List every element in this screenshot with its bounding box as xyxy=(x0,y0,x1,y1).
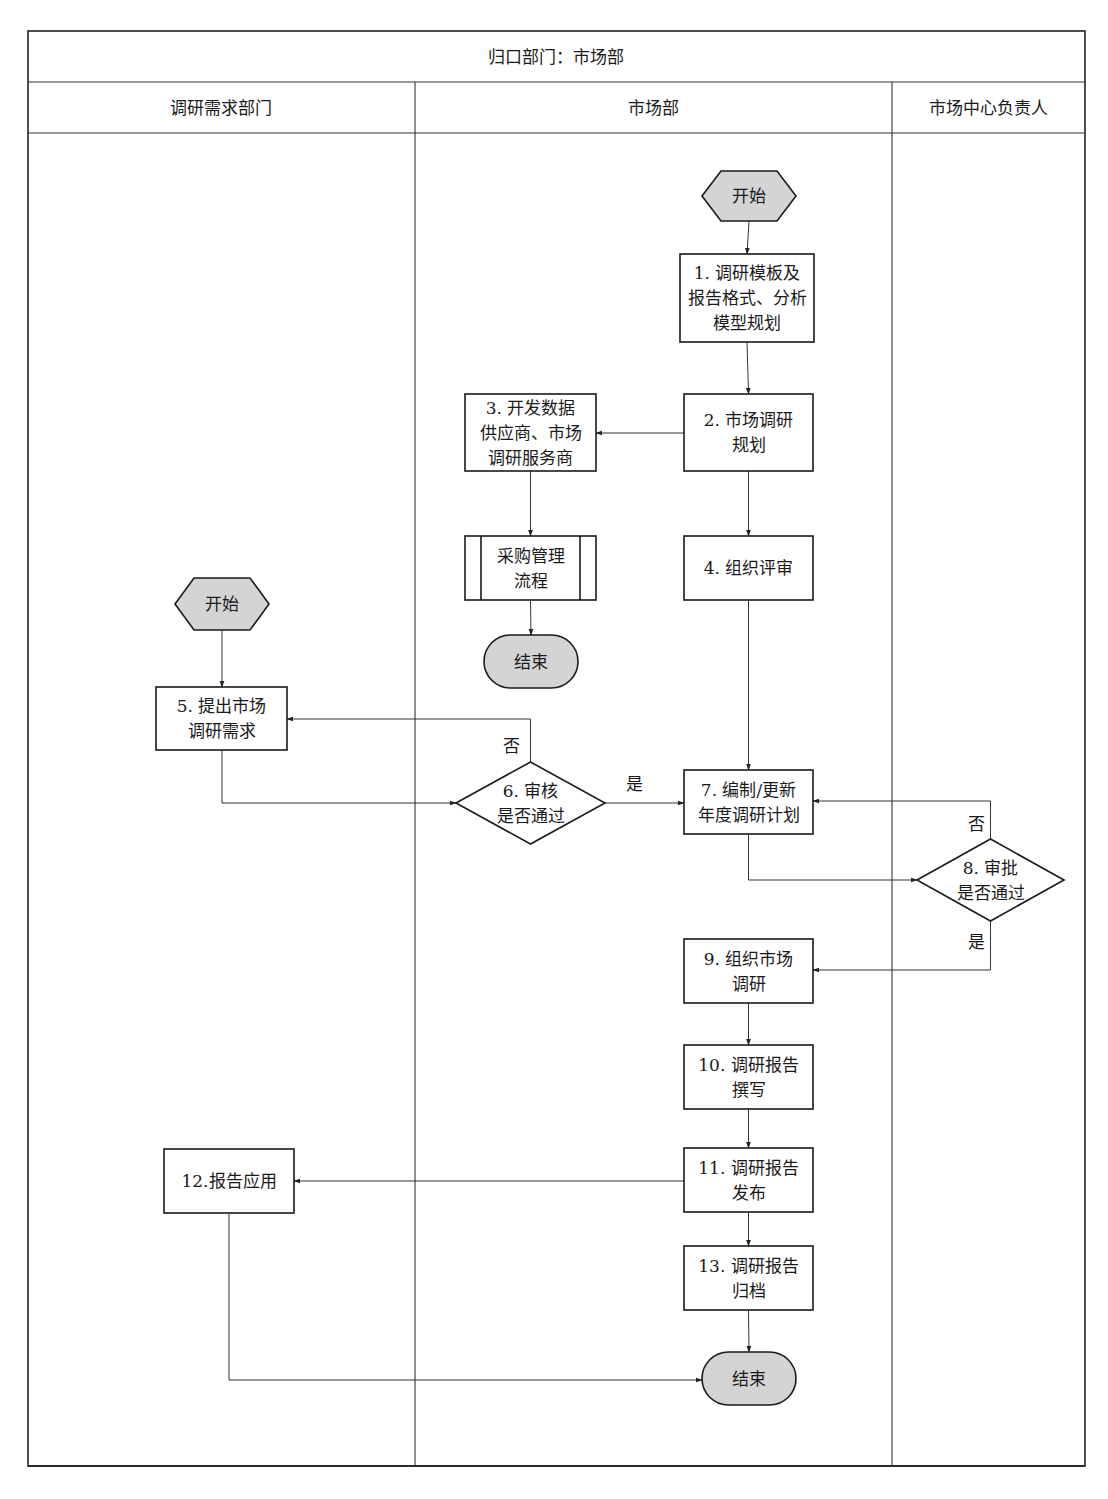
edge-label: 是 xyxy=(968,932,985,952)
node-label-line: 9. 组织市场 xyxy=(704,949,794,969)
connector-line xyxy=(531,600,532,635)
node-label-line: 4. 组织评审 xyxy=(704,558,794,578)
connector-n12-to-end_main xyxy=(229,1213,702,1380)
node-label-line: 结束 xyxy=(514,652,548,672)
connector-line xyxy=(749,1310,750,1352)
node-label-line: 开始 xyxy=(732,186,766,206)
connector-n6-to-n7: 是 xyxy=(605,774,684,803)
flow-node-end_procurement[interactable]: 结束 xyxy=(484,635,578,688)
flow-node-n4[interactable]: 4. 组织评审 xyxy=(684,536,813,600)
node-label-line: 12.报告应用 xyxy=(181,1171,276,1191)
node-label-line: 6. 审核 xyxy=(503,781,559,801)
connector-n8-to-n9: 是 xyxy=(813,921,991,970)
edges-layer: 否是否是 xyxy=(222,221,991,1380)
node-label-line: 年度调研计划 xyxy=(698,805,800,825)
connector-line xyxy=(747,342,749,394)
node-label-line: 供应商、市场 xyxy=(480,423,582,443)
flow-node-n8[interactable]: 8. 审批是否通过 xyxy=(917,839,1064,921)
connector-line xyxy=(287,719,531,762)
decision-diamond-shape xyxy=(917,839,1064,921)
connector-n6-to-n5: 否 xyxy=(287,719,531,762)
node-label-line: 发布 xyxy=(732,1183,766,1203)
node-label-line: 1. 调研模板及 xyxy=(694,263,801,283)
node-label-line: 撰写 xyxy=(732,1080,766,1100)
owner-department-title: 归口部门：市场部 xyxy=(488,47,624,67)
node-label-line: 3. 开发数据 xyxy=(486,398,576,418)
flow-node-n13[interactable]: 13. 调研报告归档 xyxy=(684,1246,813,1310)
node-label-line: 11. 调研报告 xyxy=(698,1158,798,1178)
connector-line xyxy=(813,921,991,970)
node-label-line: 归档 xyxy=(732,1281,766,1301)
flow-node-end_main[interactable]: 结束 xyxy=(702,1352,796,1405)
node-label-line: 开始 xyxy=(205,594,239,614)
node-label-line: 流程 xyxy=(514,571,548,591)
node-label-line: 2. 市场调研 xyxy=(704,410,794,430)
flow-node-n7[interactable]: 7. 编制/更新年度调研计划 xyxy=(684,770,813,834)
lane-header-market: 市场部 xyxy=(628,98,679,118)
connector-n8-to-n7: 否 xyxy=(813,801,991,839)
lane-header-demand: 调研需求部门 xyxy=(170,98,272,118)
connector-line xyxy=(222,750,456,803)
flow-node-start_market[interactable]: 开始 xyxy=(702,171,796,221)
connector-n1-to-n2 xyxy=(747,342,749,394)
edge-label: 否 xyxy=(503,736,520,756)
node-label-line: 调研服务商 xyxy=(488,448,573,468)
flow-node-n5[interactable]: 5. 提出市场调研需求 xyxy=(156,687,287,750)
flow-node-n11[interactable]: 11. 调研报告发布 xyxy=(684,1148,813,1212)
connector-n13-to-end_main xyxy=(749,1310,750,1352)
flow-node-n6[interactable]: 6. 审核是否通过 xyxy=(456,762,605,844)
swimlane-flowchart: 归口部门：市场部 调研需求部门 市场部 市场中心负责人 否是否是 开始1. 调研… xyxy=(0,0,1108,1499)
flow-node-procurement[interactable]: 采购管理流程 xyxy=(465,536,596,600)
flow-node-n12[interactable]: 12.报告应用 xyxy=(164,1149,294,1213)
flow-node-n2[interactable]: 2. 市场调研规划 xyxy=(684,394,813,471)
node-label-line: 5. 提出市场 xyxy=(177,696,267,716)
node-label-line: 结束 xyxy=(732,1369,766,1389)
edge-label: 否 xyxy=(968,814,985,834)
node-label-line: 7. 编制/更新 xyxy=(701,780,796,800)
node-label-line: 8. 审批 xyxy=(963,858,1019,878)
node-label-line: 模型规划 xyxy=(713,313,781,333)
connector-line xyxy=(229,1213,702,1380)
node-label-line: 调研 xyxy=(732,974,766,994)
node-label-line: 13. 调研报告 xyxy=(698,1256,798,1276)
connector-line xyxy=(747,221,749,254)
node-label-line: 10. 调研报告 xyxy=(698,1055,798,1075)
node-label-line: 是否通过 xyxy=(497,806,565,826)
decision-diamond-shape xyxy=(456,762,605,844)
node-label-line: 报告格式、分析 xyxy=(688,288,807,308)
node-label-line: 采购管理 xyxy=(497,546,565,566)
node-label-line: 是否通过 xyxy=(957,883,1025,903)
node-label-line: 规划 xyxy=(732,435,766,455)
node-label-line: 调研需求 xyxy=(188,721,256,741)
process-box-shape xyxy=(684,394,813,471)
flow-node-n9[interactable]: 9. 组织市场调研 xyxy=(684,939,813,1003)
connector-procurement-to-end_procurement xyxy=(531,600,532,635)
edge-label: 是 xyxy=(626,774,643,794)
flow-node-n3[interactable]: 3. 开发数据供应商、市场调研服务商 xyxy=(465,394,596,471)
lane-header-head: 市场中心负责人 xyxy=(929,98,1048,118)
connector-n5-to-n6 xyxy=(222,750,456,803)
nodes-layer: 开始1. 调研模板及报告格式、分析模型规划2. 市场调研规划3. 开发数据供应商… xyxy=(156,171,1064,1405)
connector-line xyxy=(813,801,991,839)
flow-node-n10[interactable]: 10. 调研报告撰写 xyxy=(684,1045,813,1109)
flow-node-n1[interactable]: 1. 调研模板及报告格式、分析模型规划 xyxy=(680,254,814,342)
connector-start_market-to-n1 xyxy=(747,221,749,254)
flow-node-start_demand[interactable]: 开始 xyxy=(175,578,269,630)
